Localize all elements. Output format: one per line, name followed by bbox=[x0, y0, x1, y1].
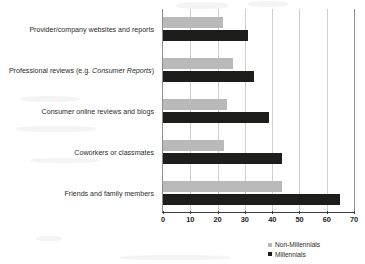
category-label-friends-and-family: Friends and family members bbox=[65, 190, 155, 199]
legend-label-millennials: Millennials bbox=[275, 250, 306, 260]
bar-group-consumer-online-reviews bbox=[163, 99, 354, 139]
legend-item-millennials: Millennials bbox=[268, 250, 320, 260]
bar-millennials bbox=[163, 71, 254, 82]
x-tick-label-70: 70 bbox=[350, 215, 358, 224]
bar-group-professional-reviews bbox=[163, 58, 354, 98]
bar-non-millennials bbox=[163, 58, 233, 69]
tickmark-70 bbox=[354, 211, 355, 214]
bar-group-coworkers-or-classmates bbox=[163, 140, 354, 180]
tickmark-20 bbox=[218, 211, 219, 214]
bar-group-provider-company-websites bbox=[163, 17, 354, 57]
category-label-professional-reviews: Professional reviews (e.g. Consumer Repo… bbox=[9, 67, 154, 76]
x-axis-tick-labels: 0 10 20 30 40 50 60 70 bbox=[0, 215, 365, 227]
bar-non-millennials bbox=[163, 140, 224, 151]
category-label-coworkers-or-classmates: Coworkers or classmates bbox=[74, 149, 154, 158]
category-label-provider-company-websites: Provider/company websites and reports bbox=[29, 26, 154, 35]
tickmark-40 bbox=[272, 211, 273, 214]
tickmark-30 bbox=[245, 211, 246, 214]
bar-non-millennials bbox=[163, 181, 282, 192]
tickmark-50 bbox=[299, 211, 300, 214]
tickmark-60 bbox=[327, 211, 328, 214]
category-label-text: Provider/company websites and reports bbox=[29, 26, 154, 34]
x-tick-label-40: 40 bbox=[268, 215, 276, 224]
bar-non-millennials bbox=[163, 17, 223, 28]
bar-millennials bbox=[163, 153, 282, 164]
category-label-italic-text: Consumer Reports bbox=[92, 67, 152, 75]
bar-millennials bbox=[163, 112, 269, 123]
x-tick-label-0: 0 bbox=[161, 215, 165, 224]
x-tick-label-60: 60 bbox=[323, 215, 331, 224]
x-tick-label-50: 50 bbox=[295, 215, 303, 224]
x-tick-label-10: 10 bbox=[186, 215, 194, 224]
category-axis-labels: Provider/company websites and reports Pr… bbox=[0, 9, 158, 212]
legend-swatch-non-millennials-icon bbox=[268, 243, 272, 247]
category-label-consumer-online-reviews: Consumer online reviews and blogs bbox=[42, 108, 154, 117]
tickmark-0 bbox=[163, 211, 164, 214]
bar-millennials bbox=[163, 30, 248, 41]
legend-swatch-millennials-icon bbox=[268, 252, 272, 256]
category-label-text-tail: ) bbox=[152, 67, 154, 75]
category-label-text: Friends and family members bbox=[65, 190, 155, 198]
legend-item-non-millennials: Non-Millennials bbox=[268, 240, 320, 250]
bar-groups bbox=[163, 9, 354, 212]
category-label-text: Professional reviews (e.g. bbox=[9, 67, 92, 75]
x-tick-label-20: 20 bbox=[214, 215, 222, 224]
category-label-text: Consumer online reviews and blogs bbox=[42, 108, 154, 116]
legend: Non-Millennials Millennials bbox=[268, 240, 320, 259]
x-tick-label-30: 30 bbox=[241, 215, 249, 224]
tickmark-10 bbox=[190, 211, 191, 214]
legend-label-non-millennials: Non-Millennials bbox=[275, 240, 320, 250]
bar-millennials bbox=[163, 194, 340, 205]
bar-non-millennials bbox=[163, 99, 227, 110]
category-label-text: Coworkers or classmates bbox=[74, 149, 154, 157]
grouped-bar-chart: Provider/company websites and reports Pr… bbox=[0, 0, 365, 264]
